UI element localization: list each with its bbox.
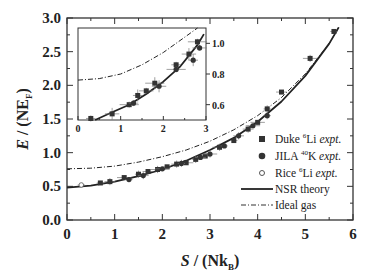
jila-point: [250, 123, 255, 128]
duke-point: [217, 145, 222, 150]
duke-point: [98, 180, 103, 185]
x-axis-label: S / (NkB): [181, 252, 239, 272]
legend-duke: Duke 6Li expt.: [275, 132, 341, 146]
x-tick-label: 1: [111, 226, 119, 242]
duke-point: [186, 52, 191, 57]
legend: Duke 6Li expt. JILA 40K expt. Rice 6Li e…: [241, 132, 341, 212]
legend-jila: JILA 40K expt.: [275, 149, 341, 163]
legend-ideal: Ideal gas: [275, 199, 317, 212]
chart: 01234560.00.51.01.52.02.53.0 01230.60.81…: [0, 0, 374, 278]
duke-point: [231, 138, 236, 143]
y-tick-label: 0.5: [42, 178, 61, 194]
y-tick-label: 1.0: [212, 38, 225, 49]
duke-point: [331, 29, 336, 34]
jila-point: [126, 177, 131, 182]
duke-point: [195, 39, 200, 44]
jila-point: [160, 166, 165, 171]
legend-marker-square: [259, 136, 265, 142]
jila-point: [236, 133, 241, 138]
legend-nsr: NSR theory: [275, 183, 330, 196]
duke-point: [146, 169, 151, 174]
inset-frame: [78, 28, 206, 120]
y-tick-label: 2.0: [42, 77, 61, 93]
duke-point: [152, 81, 157, 86]
legend-rice: Rice 6Li expt.: [275, 166, 338, 180]
x-tick-label: 0: [63, 226, 71, 242]
x-tick-label: 3: [206, 226, 214, 242]
y-axis-label: E / (NEF): [14, 88, 34, 151]
y-tick-label: 1.5: [42, 111, 61, 127]
jila-point: [156, 84, 161, 89]
x-tick-label: 4: [254, 226, 262, 242]
duke-point: [265, 106, 270, 111]
jila-point: [197, 45, 202, 50]
jila-point: [179, 161, 184, 166]
y-tick-label: 3.0: [42, 10, 61, 26]
legend-marker-filled-circle: [259, 153, 266, 160]
duke-point: [308, 56, 313, 61]
jila-point: [131, 101, 136, 106]
duke-point: [246, 127, 251, 132]
x-tick-label: 1: [118, 123, 123, 134]
jila-point: [222, 143, 227, 148]
duke-point: [110, 111, 115, 116]
duke-point: [107, 179, 112, 184]
x-tick-label: 2: [159, 226, 167, 242]
y-tick-label: 2.5: [42, 44, 61, 60]
x-tick-label: 5: [302, 226, 310, 242]
duke-point: [88, 116, 93, 121]
x-tick-label: 2: [161, 123, 166, 134]
duke-point: [174, 162, 179, 167]
duke-point: [144, 88, 149, 93]
duke-point: [136, 172, 141, 177]
duke-point: [155, 167, 160, 172]
duke-point: [255, 120, 260, 125]
y-tick-label: 1.0: [42, 145, 61, 161]
duke-point: [279, 90, 284, 95]
jila-point: [198, 155, 203, 160]
y-tick-label: 0.6: [212, 100, 225, 111]
x-tick-label: 0: [76, 123, 81, 134]
jila-point: [207, 151, 212, 156]
duke-point: [184, 160, 189, 165]
x-tick-label: 6: [349, 226, 357, 242]
rice-point: [79, 183, 84, 188]
jila-point: [141, 173, 146, 178]
duke-point: [135, 93, 140, 98]
legend-marker-open-circle: [260, 171, 265, 176]
y-tick-label: 0.8: [212, 69, 225, 80]
jila-point: [265, 113, 270, 118]
jila-point: [191, 58, 196, 63]
y-tick-label: 0.0: [42, 212, 61, 228]
x-tick-label: 3: [204, 123, 209, 134]
jila-point: [174, 67, 179, 72]
